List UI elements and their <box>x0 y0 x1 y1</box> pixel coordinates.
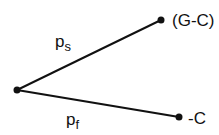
edge-pf <box>17 90 179 117</box>
edge-label-pf-sub: f <box>75 117 79 132</box>
upper-node-label: (G-C) <box>172 12 214 29</box>
edge-ps <box>17 20 161 90</box>
node-origin <box>14 87 21 94</box>
edge-label-pf: pf <box>66 111 79 128</box>
edge-label-ps: ps <box>55 33 71 50</box>
node-lower <box>176 114 183 121</box>
lower-node-label: -C <box>188 110 206 127</box>
edge-label-ps-sub: s <box>64 39 71 54</box>
node-upper <box>158 17 165 24</box>
